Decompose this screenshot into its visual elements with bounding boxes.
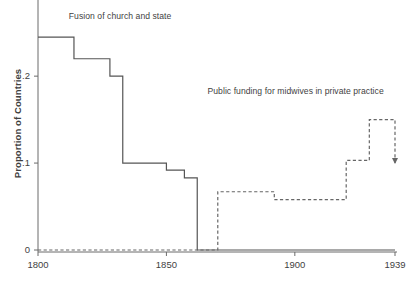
chart-plot-area bbox=[0, 0, 409, 281]
x-tick-label: 1939 bbox=[375, 259, 409, 270]
x-tick-label: 1800 bbox=[18, 259, 58, 270]
x-tick-label: 1900 bbox=[275, 259, 315, 270]
y-axis-ticks bbox=[34, 76, 38, 250]
y-tick-label: .2 bbox=[10, 70, 30, 81]
annotation-label-2: Public funding for midwives in private p… bbox=[208, 86, 384, 96]
x-tick-label: 1850 bbox=[146, 259, 186, 270]
chart-container: Proportion of Countries 0.1.2 1800185019… bbox=[0, 0, 409, 281]
series-line-fusion-of-church-and-state bbox=[38, 37, 395, 250]
y-tick-label: .1 bbox=[10, 157, 30, 168]
series-line-public-funding-for-midwives bbox=[38, 120, 395, 250]
series-end-arrow-icon bbox=[392, 158, 398, 164]
annotation-label-1: Fusion of church and state bbox=[69, 11, 172, 21]
y-tick-label: 0 bbox=[10, 244, 30, 255]
x-axis-ticks bbox=[38, 252, 395, 256]
